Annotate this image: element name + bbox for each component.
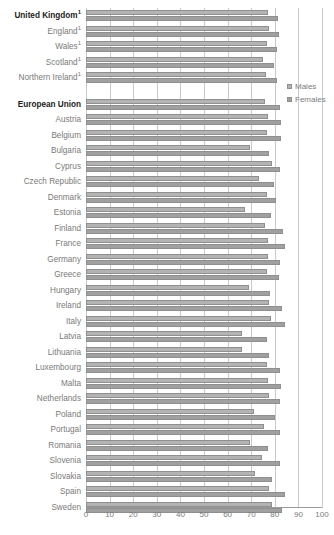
bar-males — [86, 316, 271, 321]
bar-males — [86, 471, 255, 476]
bar-females — [86, 492, 285, 497]
row-label-footnote: 1 — [78, 9, 81, 15]
bar-males — [86, 130, 267, 135]
chart-row: Scotland1 — [86, 55, 322, 71]
bar-females — [86, 430, 280, 435]
row-label: Luxembourg — [35, 360, 81, 376]
row-label: Hungary — [50, 283, 81, 299]
x-tick-label: 10 — [105, 510, 114, 519]
chart-row: Denmark — [86, 190, 322, 206]
bar-females — [86, 16, 278, 21]
chart-row: Belgium — [86, 128, 322, 144]
row-label: Austria — [56, 112, 81, 128]
bar-males — [86, 192, 267, 197]
bar-females — [86, 275, 279, 280]
bar-males — [86, 57, 263, 62]
bar-males — [86, 10, 268, 15]
legend-swatch-icon — [287, 97, 292, 102]
row-label: Wales1 — [55, 39, 81, 55]
chart-row: Ireland — [86, 298, 322, 314]
x-tick-label: 60 — [223, 510, 232, 519]
x-tick-label: 100 — [315, 510, 328, 519]
row-label: Slovakia — [50, 469, 81, 485]
bar-females — [86, 244, 285, 249]
bar-males — [86, 207, 245, 212]
row-label: Germany — [47, 252, 81, 268]
chart-row: France — [86, 236, 322, 252]
bar-females — [86, 63, 274, 68]
bar-males — [86, 254, 268, 259]
bar-females — [86, 32, 279, 37]
x-tick-label: 40 — [176, 510, 185, 519]
bar-males — [86, 362, 267, 367]
bar-females — [86, 260, 280, 265]
x-tick-label: 90 — [294, 510, 303, 519]
row-label: Belgium — [51, 128, 81, 144]
bar-females — [86, 47, 277, 52]
row-label: Cyprus — [55, 159, 81, 175]
chart-row: Portugal — [86, 422, 322, 438]
chart-row: United Kingdom1 — [86, 8, 322, 24]
row-label: France — [56, 236, 81, 252]
row-label: Finland — [54, 221, 81, 237]
chart-row: Lithuania — [86, 345, 322, 361]
row-label: Northern Ireland1 — [18, 70, 81, 86]
chart-row: Malta — [86, 376, 322, 392]
row-label: European Union — [18, 97, 81, 113]
bar-females — [86, 105, 280, 110]
legend-item-males[interactable]: Males — [287, 82, 326, 91]
chart-row: Czech Republic — [86, 174, 322, 190]
legend-label: Females — [295, 95, 326, 104]
bar-males — [86, 440, 250, 445]
bar-males — [86, 424, 264, 429]
row-label: Estonia — [54, 205, 81, 221]
bar-males — [86, 161, 272, 166]
row-label-footnote: 1 — [78, 71, 81, 77]
chart-row: Wales1 — [86, 39, 322, 55]
bar-females — [86, 415, 275, 420]
row-label: Spain — [60, 484, 81, 500]
row-label-footnote: 1 — [78, 40, 81, 46]
bar-females — [86, 136, 281, 141]
bar-females — [86, 182, 274, 187]
row-label: England1 — [48, 24, 81, 40]
bar-females — [86, 213, 271, 218]
bar-males — [86, 145, 250, 150]
chart-row: Estonia — [86, 205, 322, 221]
bar-females — [86, 198, 276, 203]
bar-females — [86, 461, 280, 466]
bar-females — [86, 306, 282, 311]
bar-males — [86, 331, 242, 336]
bar-males — [86, 347, 242, 352]
row-label: Bulgaria — [51, 143, 81, 159]
row-label: Ireland — [56, 298, 81, 314]
bar-females — [86, 120, 281, 125]
chart-row: Slovakia — [86, 469, 322, 485]
bar-females — [86, 446, 268, 451]
bar-males — [86, 269, 267, 274]
row-label: Romania — [48, 438, 81, 454]
chart-row: Austria — [86, 112, 322, 128]
bar-females — [86, 399, 280, 404]
chart-row: England1 — [86, 24, 322, 40]
bar-males — [86, 26, 269, 31]
chart-row: Romania — [86, 438, 322, 454]
bar-females — [86, 384, 281, 389]
chart-row: Finland — [86, 221, 322, 237]
x-tick-label: 30 — [152, 510, 161, 519]
bar-males — [86, 378, 268, 383]
bar-females — [86, 353, 269, 358]
x-tick-label: 20 — [129, 510, 138, 519]
legend-item-females[interactable]: Females — [287, 95, 326, 104]
chart-row: Luxembourg — [86, 360, 322, 376]
bar-females — [86, 337, 267, 342]
chart-row: Latvia — [86, 329, 322, 345]
chart-row: Italy — [86, 314, 322, 330]
chart-row: Spain — [86, 484, 322, 500]
bar-females — [86, 151, 269, 156]
bar-males — [86, 486, 269, 491]
row-label: Italy — [66, 314, 81, 330]
x-tick-label: 80 — [270, 510, 279, 519]
axis-baseline — [86, 507, 322, 508]
row-label: Poland — [56, 407, 82, 423]
